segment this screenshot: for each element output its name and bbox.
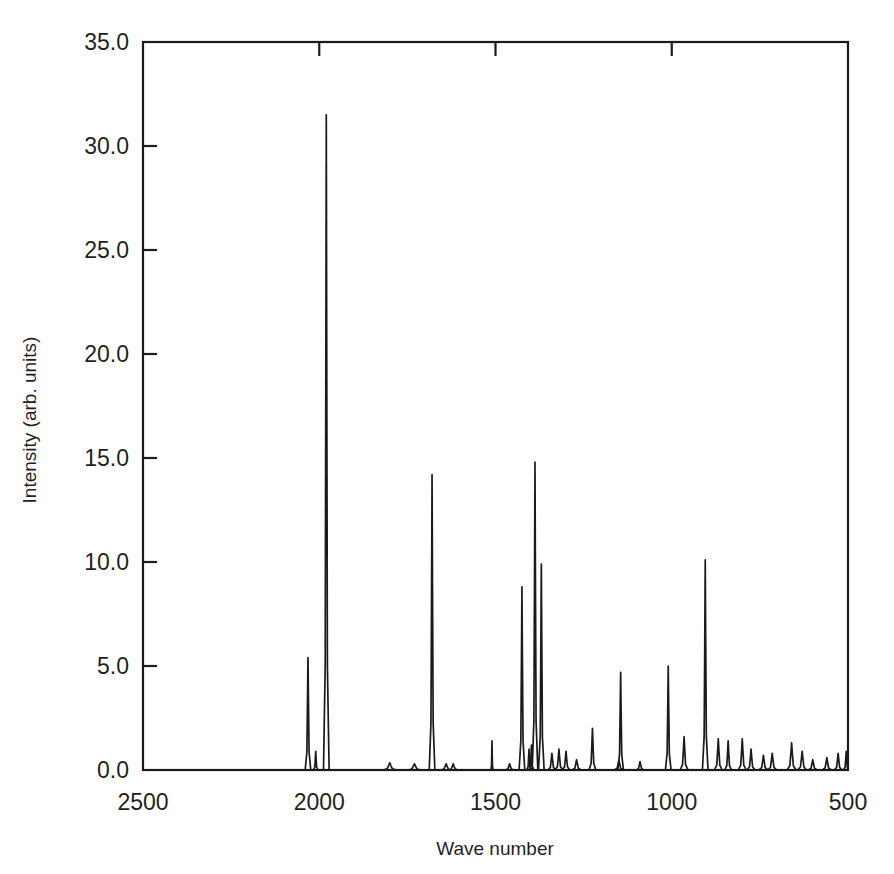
x-axis-title: Wave number <box>436 838 554 859</box>
x-axis: 2500200015001000500 <box>117 42 867 815</box>
x-tick-label: 2500 <box>117 789 168 815</box>
spectrum-chart: 0.05.010.015.020.025.030.035.0 250020001… <box>0 0 894 874</box>
x-tick-label: 1000 <box>646 789 697 815</box>
y-tick-label: 25.0 <box>84 237 129 263</box>
y-tick-label: 10.0 <box>84 549 129 575</box>
spectrum-trace <box>143 115 848 770</box>
y-tick-label: 30.0 <box>84 133 129 159</box>
x-tick-label: 2000 <box>294 789 345 815</box>
y-tick-label: 5.0 <box>97 653 129 679</box>
y-tick-label: 15.0 <box>84 445 129 471</box>
y-tick-label: 35.0 <box>84 29 129 55</box>
plot-frame <box>143 42 848 770</box>
y-axis: 0.05.010.015.020.025.030.035.0 <box>84 29 157 783</box>
plot-border <box>143 42 848 770</box>
y-tick-label: 0.0 <box>97 757 129 783</box>
y-axis-title: Intensity (arb. units) <box>19 337 40 504</box>
y-tick-label: 20.0 <box>84 341 129 367</box>
x-tick-label: 500 <box>829 789 867 815</box>
x-tick-label: 1500 <box>470 789 521 815</box>
spectrum-trace-group <box>143 115 848 770</box>
